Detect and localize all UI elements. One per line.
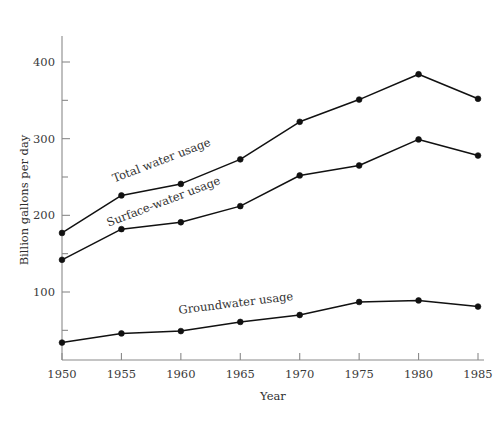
y-axis-title: Billion gallons per day — [17, 134, 31, 265]
data-point-marker — [119, 193, 125, 199]
data-point-marker — [297, 173, 303, 179]
data-point-marker — [475, 304, 481, 310]
data-point-marker — [297, 119, 303, 125]
data-point-marker — [178, 219, 184, 225]
chart-container: 100200300400 195019551960196519701975198… — [0, 0, 504, 423]
line-chart: 100200300400 195019551960196519701975198… — [0, 0, 504, 423]
data-point-marker — [356, 163, 362, 169]
x-tick-label: 1985 — [463, 367, 492, 381]
data-point-marker — [475, 96, 481, 102]
data-point-marker — [416, 298, 422, 304]
data-point-marker — [297, 312, 303, 318]
y-tick-label: 200 — [33, 208, 55, 222]
data-point-marker — [356, 299, 362, 305]
y-tick-label: 400 — [33, 55, 55, 69]
data-point-marker — [119, 331, 125, 337]
data-point-marker — [356, 97, 362, 103]
data-point-marker — [416, 71, 422, 77]
x-tick-label: 1975 — [345, 367, 374, 381]
data-point-marker — [475, 153, 481, 159]
data-point-marker — [178, 328, 184, 334]
data-point-marker — [237, 203, 243, 209]
x-tick-label: 1970 — [285, 367, 314, 381]
x-axis-title: Year — [259, 389, 286, 403]
data-point-marker — [59, 340, 65, 346]
data-point-marker — [416, 137, 422, 143]
data-point-marker — [59, 230, 65, 236]
x-tick-label: 1965 — [226, 367, 255, 381]
data-point-marker — [237, 319, 243, 325]
y-tick-label: 300 — [33, 132, 55, 146]
x-tick-label: 1980 — [404, 367, 433, 381]
data-point-marker — [119, 226, 125, 232]
data-point-marker — [59, 257, 65, 263]
x-tick-label: 1950 — [47, 367, 76, 381]
x-tick-label: 1955 — [107, 367, 136, 381]
x-tick-label: 1960 — [166, 367, 195, 381]
data-point-marker — [237, 156, 243, 162]
y-tick-label: 100 — [33, 285, 55, 299]
